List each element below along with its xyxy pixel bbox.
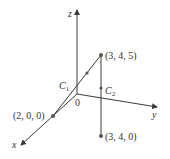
- curve-label-c1-name: C: [59, 80, 66, 91]
- point-label-2-0-0: (2, 0, 0): [13, 111, 45, 121]
- curve-label-c1: C1: [59, 81, 69, 93]
- curve-label-c2-subscript: 2: [112, 90, 116, 98]
- point-label-3-4-5: (3, 4, 5): [105, 51, 137, 61]
- point-2-0-0: [51, 114, 55, 118]
- y-axis-label: y: [152, 110, 156, 120]
- z-axis-label: z: [68, 9, 72, 19]
- x-axis-label: x: [12, 140, 16, 150]
- curve-label-c2: C2: [105, 86, 115, 98]
- point-3-4-0: [99, 134, 103, 138]
- diagram-canvas: z y x 0 (3, 4, 5) (2, 0, 0) (3, 4, 0) C1…: [0, 0, 170, 159]
- origin-label: 0: [75, 98, 80, 108]
- axes-and-curves: [0, 0, 170, 159]
- curve-label-c1-subscript: 1: [66, 85, 70, 93]
- point-3-4-5: [99, 53, 103, 57]
- c1-direction-arrow-icon: [85, 71, 88, 74]
- c2-direction-arrow-icon: [99, 86, 102, 89]
- point-label-3-4-0: (3, 4, 0): [105, 132, 137, 142]
- y-axis: [77, 94, 157, 107]
- curve-label-c2-name: C: [105, 85, 112, 96]
